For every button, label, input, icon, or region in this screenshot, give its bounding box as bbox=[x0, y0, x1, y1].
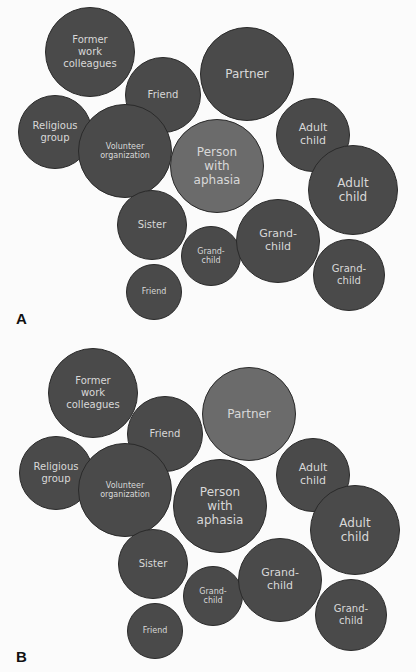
bubble-grand--child: Grand- child bbox=[181, 226, 241, 286]
bubble-adult-child: Adult child bbox=[310, 485, 400, 575]
bubble-person-with-aphasia: Person with aphasia bbox=[173, 459, 267, 553]
bubble-friend: Friend bbox=[127, 603, 183, 659]
bubble-volunteer-organization: Volunteer organization bbox=[78, 104, 172, 198]
panel-label-b: B bbox=[16, 648, 27, 665]
bubble-partner: Partner bbox=[202, 367, 296, 461]
bubble-former-work-colleagues: Former work colleagues bbox=[45, 7, 135, 97]
bubble-friend: Friend bbox=[126, 264, 182, 320]
bubble-grand--child: Grand- child bbox=[183, 566, 243, 626]
panel-label-a: A bbox=[16, 310, 27, 327]
bubble-grand--child: Grand- child bbox=[238, 538, 322, 622]
bubble-grand--child: Grand- child bbox=[236, 199, 320, 283]
bubble-grand--child: Grand- child bbox=[313, 239, 385, 311]
bubble-volunteer-organization: Volunteer organization bbox=[78, 443, 172, 537]
bubble-sister: Sister bbox=[117, 190, 187, 260]
bubble-partner: Partner bbox=[200, 27, 294, 121]
bubble-person-with-aphasia: Person with aphasia bbox=[170, 119, 264, 213]
bubble-sister: Sister bbox=[118, 529, 188, 599]
bubble-adult-child: Adult child bbox=[308, 145, 398, 235]
bubble-grand--child: Grand- child bbox=[315, 579, 387, 651]
bubble-former-work-colleagues: Former work colleagues bbox=[48, 348, 138, 438]
